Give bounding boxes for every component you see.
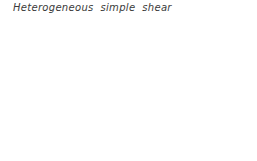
title-word-1: Heterogeneous bbox=[13, 2, 94, 13]
title-word-3: shear bbox=[142, 2, 171, 13]
title-word-2: simple bbox=[101, 2, 136, 13]
shear-diagram bbox=[0, 0, 257, 161]
figure-title: Heterogeneoussimpleshear bbox=[13, 2, 179, 13]
